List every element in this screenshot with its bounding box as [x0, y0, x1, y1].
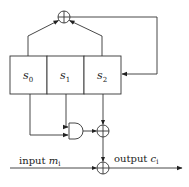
input-label: input mi — [19, 155, 61, 168]
wire-s1-to-and — [66, 94, 68, 127]
xor-filter-icon — [97, 125, 109, 137]
register-s1: s1 — [47, 56, 84, 94]
output-label: output ci — [114, 153, 159, 166]
wire-s0-to-and — [30, 94, 68, 135]
register-s0: s0 — [10, 56, 47, 94]
lfsr-diagram: s0 s1 s2 input mi output ci — [0, 0, 189, 187]
and-gate-icon — [69, 123, 83, 139]
register-s2: s2 — [84, 56, 121, 94]
wire-s2-to-feedback — [70, 21, 103, 57]
xor-feedback-icon — [58, 11, 70, 23]
xor-output-icon — [97, 162, 109, 174]
wire-s0-to-feedback — [28, 21, 59, 57]
